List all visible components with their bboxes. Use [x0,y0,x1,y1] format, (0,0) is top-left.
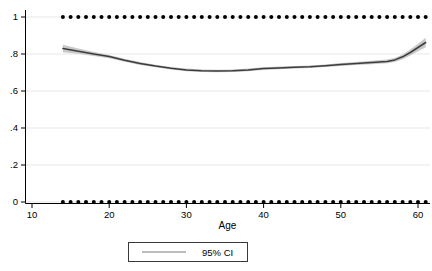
y-tick-label: .2 [10,159,18,170]
axis-frame [26,10,431,204]
stata-graph: 0.2.4.6.81102030405060 Age 95% CI [0,0,432,271]
x-tick-label: 20 [104,209,115,220]
y-tick-label: .4 [10,122,18,133]
y-tick-label: .8 [10,48,18,59]
x-axis-title: Age [25,220,430,231]
legend-box: 95% CI [128,242,248,262]
x-tick-label: 10 [27,209,38,220]
y-tick-label: .6 [10,85,18,96]
x-tick-label: 50 [336,209,347,220]
x-axis: 102030405060 [27,204,424,221]
x-tick-label: 60 [413,209,424,220]
y-tick-label: 0 [13,196,18,207]
y-tick-label: 1 [13,11,18,22]
x-tick-label: 30 [181,209,192,220]
ci-line-sample-icon [142,251,186,253]
smooth-line [63,43,426,72]
x-tick-label: 40 [258,209,269,220]
y-axis: 0.2.4.6.81 [10,11,25,207]
ci-band [63,38,426,73]
gridlines [26,17,431,202]
legend-label: 95% CI [202,247,233,258]
